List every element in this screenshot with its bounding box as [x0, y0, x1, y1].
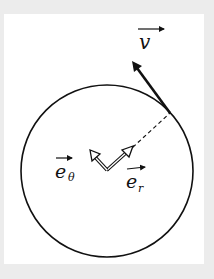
- diagram-canvas: v e θ e r: [0, 0, 214, 279]
- unit-vector-r-label: e r: [126, 167, 145, 195]
- svg-text:e: e: [126, 170, 137, 192]
- svg-text:θ: θ: [68, 171, 75, 184]
- svg-text:e: e: [55, 160, 66, 182]
- unit-vector-theta-label: e θ: [55, 158, 75, 184]
- svg-text:r: r: [138, 182, 144, 195]
- unit-vector-r-arrow: [107, 146, 133, 170]
- velocity-arrow: [132, 61, 170, 113]
- velocity-label: v: [138, 29, 164, 54]
- svg-text:v: v: [139, 30, 151, 54]
- unit-vector-theta-arrow: [90, 150, 107, 170]
